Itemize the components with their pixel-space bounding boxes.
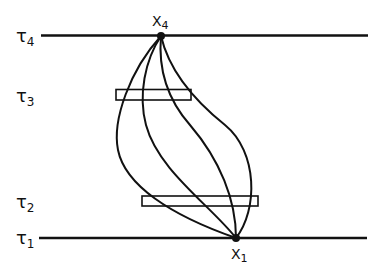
point-label-x1: X1 [231,246,248,265]
point-label-x4: X4 [152,13,169,32]
path-2 [143,36,236,238]
point-x1-dot [232,234,240,242]
level-label-tau3: τ3 [16,85,34,109]
level-label-tau4: τ4 [16,25,34,49]
paths [117,36,251,238]
level-label-tau1: τ1 [16,227,34,251]
path-1 [117,36,236,238]
level-label-tau2: τ2 [16,191,34,215]
worldline-diagram: τ4 τ3 τ2 τ1 X4 X1 [0,0,380,274]
point-x4-dot [157,32,165,40]
